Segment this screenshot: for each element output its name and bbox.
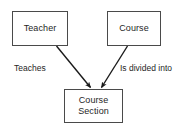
- entity-box-teacher[interactable]: Teacher: [12, 11, 68, 46]
- er-diagram-canvas: Teacher Course Course Section Teaches Is…: [0, 0, 187, 127]
- entity-label-course-section: Course Section: [78, 95, 109, 117]
- entity-box-course[interactable]: Course: [107, 11, 161, 46]
- entity-box-course-section[interactable]: Course Section: [64, 89, 123, 123]
- entity-label-course: Course: [119, 23, 149, 34]
- entity-label-teacher: Teacher: [24, 23, 57, 34]
- relationship-label-teaches: Teaches: [14, 63, 46, 73]
- relationship-label-is-divided-into: Is divided into: [120, 63, 172, 73]
- edge-teacher-to-course-section: [57, 46, 91, 88]
